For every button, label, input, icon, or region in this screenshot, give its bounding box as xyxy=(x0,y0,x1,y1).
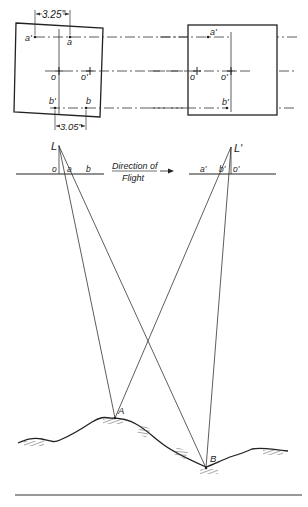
right-label-o: o xyxy=(190,72,195,82)
label-b-prime: b' xyxy=(49,96,56,106)
arrow-right-icon xyxy=(168,169,174,174)
direction-line2: Flight xyxy=(122,173,145,183)
label-o: o xyxy=(51,72,56,82)
right-photo-frame xyxy=(188,25,277,115)
ground-point-A: A xyxy=(117,405,124,416)
right-station-a-prime: a' xyxy=(200,164,207,174)
dimension-bottom-label: 3.05" xyxy=(60,121,82,132)
direction-line1: Direction of xyxy=(112,161,159,171)
right-label-b-prime: b' xyxy=(222,97,229,107)
ray-Lp-A xyxy=(115,147,231,418)
label-a-prime: a' xyxy=(25,33,32,43)
exposure-L: L xyxy=(51,140,57,152)
label-o-prime: o' xyxy=(81,72,88,82)
ground-point-B: B xyxy=(210,453,217,464)
right-label-o-prime: o' xyxy=(221,72,228,82)
right-label-a-prime: a' xyxy=(210,27,217,37)
left-station-o: o xyxy=(52,164,57,174)
rays xyxy=(59,146,231,468)
ray-L-A xyxy=(59,146,115,418)
right-photo: a' o o' b' xyxy=(150,25,277,115)
left-station: L o a b xyxy=(16,140,104,174)
direction-of-flight: Direction of Flight xyxy=(112,161,174,183)
label-a: a xyxy=(67,37,72,47)
parallax-diagram: 3.25" 3.05" a' a o o' b' b a' o o' b' xyxy=(0,0,308,507)
right-station-o-prime: o' xyxy=(233,164,240,174)
label-b: b xyxy=(86,96,91,106)
ray-L-B xyxy=(59,146,206,468)
left-station-b: b xyxy=(86,164,91,174)
ray-Lp-B xyxy=(206,147,231,468)
right-station: L' a' b' o' xyxy=(189,142,276,174)
dimension-top-label: 3.25" xyxy=(42,9,65,20)
terrain: A B xyxy=(18,405,288,474)
exposure-L-prime: L' xyxy=(234,142,243,154)
ground-profile xyxy=(18,417,288,467)
